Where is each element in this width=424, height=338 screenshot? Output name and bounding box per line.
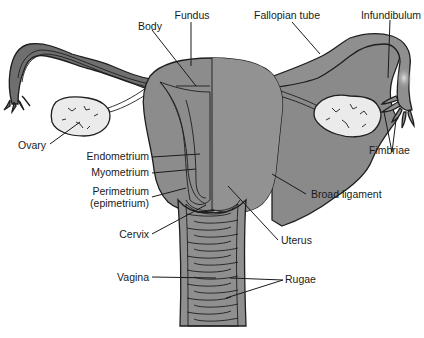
label-fallopian-tube: Fallopian tube [254, 9, 320, 21]
label-fimbriae: Fimbriae [369, 144, 410, 156]
label-cervix: Cervix [119, 228, 150, 240]
left-fallopian-tube [9, 44, 156, 104]
left-ovary [51, 97, 110, 136]
label-vagina: Vagina [117, 271, 149, 283]
label-fundus: Fundus [174, 9, 209, 21]
label-ovary: Ovary [18, 139, 47, 151]
label-infundibulum: Infundibulum [361, 9, 421, 21]
leader-fallopian-tube [292, 22, 320, 54]
label-epimetrium: (epimetrium) [90, 197, 149, 209]
label-myometrium: Myometrium [91, 166, 149, 178]
infundibulum-highlight [396, 66, 412, 90]
label-body: Body [138, 20, 163, 32]
label-uterus: Uterus [281, 234, 312, 246]
label-broad-ligament: Broad ligament [311, 188, 382, 200]
label-endometrium: Endometrium [87, 150, 150, 162]
label-perimetrium: Perimetrium [92, 185, 149, 197]
left-tube-folds [18, 50, 152, 88]
label-rugae: Rugae [285, 273, 316, 285]
uterus-anatomy-diagram: Body Fundus Fallopian tube Infundibulum … [0, 0, 424, 338]
